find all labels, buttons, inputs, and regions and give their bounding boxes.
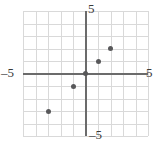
data-point: [46, 109, 51, 114]
data-point: [96, 59, 101, 64]
data-point: [108, 46, 113, 51]
y-axis-max-label: 5: [88, 2, 95, 15]
x-axis-max-label: 5: [146, 66, 153, 79]
data-point: [83, 71, 88, 76]
coordinate-plane-figure: 5 –5 –5 5: [0, 0, 160, 148]
data-point: [71, 84, 76, 89]
gridline-horizontal: [23, 136, 148, 137]
y-axis-min-label: –5: [89, 128, 102, 141]
grid-area: [23, 11, 148, 136]
x-axis-min-label: –5: [1, 66, 14, 79]
